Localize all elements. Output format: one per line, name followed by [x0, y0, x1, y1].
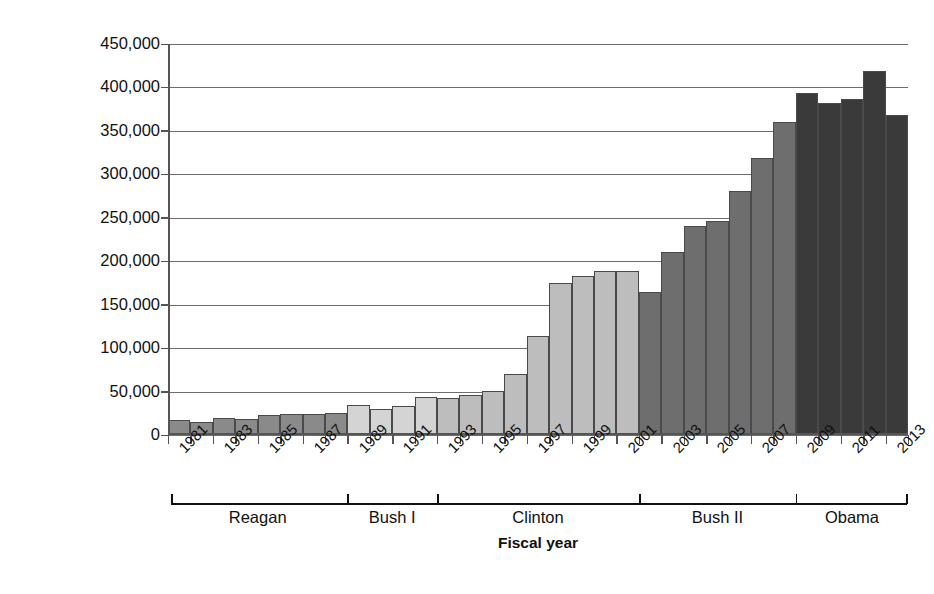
y-axis-tick-label: 50,000: [40, 382, 160, 401]
y-axis-tick-label: 400,000: [40, 77, 160, 96]
bar: [482, 391, 504, 435]
bar: [751, 158, 773, 436]
x-axis-tick-mark: [572, 435, 573, 444]
x-axis-tick-mark: [886, 435, 887, 444]
y-axis-tick-mark: [161, 435, 168, 437]
administration-label-clinton: Clinton: [512, 508, 563, 527]
bar: [549, 283, 571, 435]
bar: [841, 99, 863, 435]
bar: [572, 276, 594, 435]
bar: [706, 221, 728, 435]
deportations-bar-chart: Deportations 450,000400,000350,000300,00…: [0, 0, 934, 594]
y-axis-tick-labels: 450,000400,000350,000300,000250,000200,0…: [32, 44, 160, 435]
x-axis-tick-mark: [168, 435, 169, 444]
bar: [729, 191, 751, 435]
y-axis-tick-mark: [161, 174, 168, 176]
x-axis-tick-mark: [303, 435, 304, 444]
administration-label-bush-ii: Bush II: [692, 508, 743, 527]
y-axis-tick-label: 350,000: [40, 121, 160, 140]
bar: [684, 226, 706, 435]
x-axis-title: Fiscal year: [168, 534, 908, 552]
y-axis-tick-label: 300,000: [40, 164, 160, 183]
y-axis-tick-label: 250,000: [40, 208, 160, 227]
y-axis-tick-mark: [161, 304, 168, 306]
x-axis-tick-mark: [616, 435, 617, 444]
plot-area: [168, 44, 908, 435]
administration-label-bush-i: Bush I: [369, 508, 416, 527]
x-axis-tick-mark: [751, 435, 752, 444]
administration-baseline: [171, 503, 907, 505]
x-axis-tick-mark: [392, 435, 393, 444]
y-axis-tick-mark: [161, 348, 168, 350]
y-axis-tick-mark: [161, 44, 168, 46]
x-axis-tick-mark: [213, 435, 214, 444]
bar: [594, 271, 616, 435]
y-axis-tick-mark: [161, 87, 168, 89]
y-axis-line: [168, 44, 170, 435]
y-axis-title: Deportations: [16, 0, 36, 40]
x-axis-tick-mark: [527, 435, 528, 444]
x-axis-tick-labels: 1981198319851987198919911993199519971999…: [168, 444, 908, 500]
x-axis-tick-mark: [347, 435, 348, 444]
bar: [639, 292, 661, 436]
bar: [616, 271, 638, 435]
x-axis-tick-mark: [482, 435, 483, 444]
y-axis-tick-mark: [161, 391, 168, 393]
y-axis-tick-mark: [161, 130, 168, 132]
y-axis-tick-label: 0: [40, 425, 160, 444]
x-axis-tick-mark: [258, 435, 259, 444]
bar: [818, 103, 840, 435]
x-axis-tick-mark: [706, 435, 707, 444]
y-axis-tick-mark: [161, 217, 168, 219]
bar-series: [168, 44, 908, 435]
x-axis-tick-mark: [841, 435, 842, 444]
bar: [347, 405, 369, 435]
bar: [863, 71, 885, 435]
bar: [437, 398, 459, 435]
x-axis-tick-mark: [796, 435, 797, 444]
bar: [886, 115, 908, 435]
y-axis-tick-label: 200,000: [40, 251, 160, 270]
administration-label-obama: Obama: [825, 508, 879, 527]
y-axis-tick-label: 100,000: [40, 338, 160, 357]
administration-label-reagan: Reagan: [229, 508, 287, 527]
x-axis-tick-mark: [437, 435, 438, 444]
y-axis-tick-label: 150,000: [40, 295, 160, 314]
bar: [773, 122, 795, 435]
bar: [527, 336, 549, 435]
y-axis-tick-mark: [161, 261, 168, 263]
bar: [661, 252, 683, 435]
bar: [796, 93, 818, 435]
x-axis-tick-mark: [661, 435, 662, 444]
administration-labels: ReaganBush IClintonBush IIObama: [168, 508, 908, 534]
y-axis-tick-label: 450,000: [40, 34, 160, 53]
